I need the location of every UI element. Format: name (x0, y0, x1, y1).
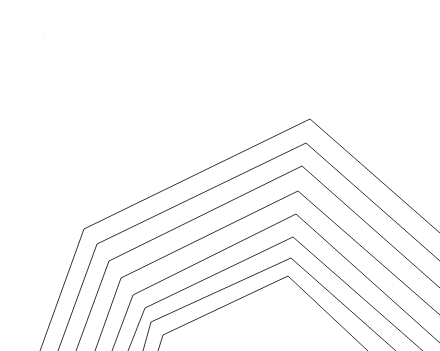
line-3 (76, 166, 440, 351)
line-5 (112, 214, 440, 351)
line-8 (158, 276, 368, 351)
line-6 (128, 237, 423, 351)
line-art-canvas (0, 0, 440, 351)
nested-chevron-lines (0, 0, 440, 351)
line-2 (58, 143, 440, 351)
line-7 (143, 258, 396, 351)
